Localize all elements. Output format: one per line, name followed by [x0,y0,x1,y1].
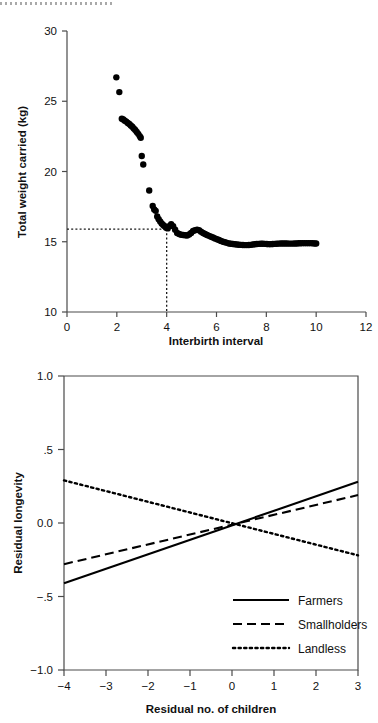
lines-x-tick-label: 2 [313,680,319,692]
data-point [138,135,144,141]
scatter-y-axis-title: Total weight carried (kg) [16,106,28,238]
figure-scatter-weight-vs-interbirth: 0246810121015202530 Interbirth interval … [0,0,378,360]
series-line-farmers [64,482,358,583]
lines-legend: FarmersSmallholdersLandless [233,594,367,656]
scatter-x-tick-label: 10 [310,321,323,333]
lines-data-series [64,480,358,583]
data-point [313,240,319,246]
lines-y-tick-label: 0.0 [37,517,53,529]
lines-x-tick-label: −2 [141,680,154,692]
lines-x-tick-label: −4 [57,680,71,692]
scatter-reference-lines [67,229,167,312]
data-point [146,187,152,193]
data-point [116,89,122,95]
scatter-x-tick-label: 8 [263,321,269,333]
scatter-x-tick-label: 4 [163,321,170,333]
legend-label-smallholders: Smallholders [298,618,367,632]
lines-y-tick-label: 1.0 [37,370,53,382]
scatter-y-tick-label: 25 [44,95,57,107]
lines-x-axis-title: Residual no. of children [146,703,276,715]
legend-label-farmers: Farmers [298,594,343,608]
series-line-landless [64,480,358,555]
lines-x-tick-label: 1 [271,680,277,692]
scatter-x-tick-label: 0 [64,321,70,333]
scatter-y-tick-label: 20 [44,166,57,178]
scatter-plot-canvas: 0246810121015202530 Interbirth interval … [0,0,378,360]
scatter-tick-labels: 0246810121015202530 [44,25,372,333]
lines-x-tick-label: −3 [99,680,112,692]
lines-y-tick-label: −1.0 [30,664,53,676]
scatter-x-tick-label: 12 [360,321,373,333]
scan-edge-dotted-artifact [0,2,112,5]
lines-y-axis-title: Residual longevity [12,472,24,574]
scatter-y-tick-label: 10 [44,306,57,318]
legend-label-landless: Landless [298,642,346,656]
data-point [153,208,159,214]
data-point [140,161,146,167]
data-point [139,153,145,159]
lines-y-tick-label: −.5 [37,591,53,603]
lines-x-tick-label: 3 [355,680,361,692]
scatter-data-points [113,74,319,248]
line-plot-canvas: −4−3−2−10123−1.0−.50.0.51.0 FarmersSmall… [0,360,378,723]
lines-x-tick-label: 0 [229,680,235,692]
scatter-tick-marks [62,31,366,317]
scatter-x-axis-title: Interbirth interval [169,335,264,347]
data-point [113,74,119,80]
scatter-y-tick-label: 30 [44,25,57,37]
scatter-x-tick-label: 6 [213,321,219,333]
lines-y-tick-label: .5 [43,444,53,456]
series-line-smallholders [64,495,358,564]
lines-x-tick-label: −1 [183,680,196,692]
scatter-y-tick-label: 15 [44,236,57,248]
figure-lines-longevity-vs-children: −4−3−2−10123−1.0−.50.0.51.0 FarmersSmall… [0,360,378,723]
scatter-x-tick-label: 2 [114,321,120,333]
